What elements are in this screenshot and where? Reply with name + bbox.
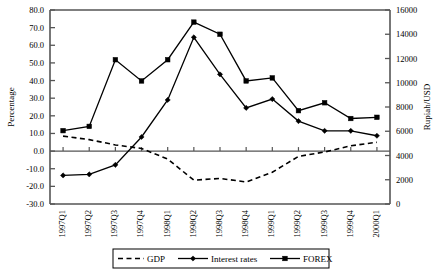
x-axis-tick-label: 1998Q2 — [188, 210, 198, 237]
chart-legend: GDPInterest ratesFOREX — [113, 249, 333, 268]
chart-axes — [50, 10, 390, 204]
x-axis-tick-label: 1998Q4 — [240, 209, 250, 237]
data-point-marker — [283, 256, 288, 261]
y-axis-left-tick-label: 0.0 — [33, 146, 44, 156]
data-point-marker — [348, 128, 353, 133]
data-point-marker — [60, 173, 65, 178]
y-axis-left-title: Percentage — [6, 87, 16, 126]
x-axis-tick-label: 1997Q3 — [109, 210, 119, 237]
data-point-marker — [375, 115, 380, 120]
y-axis-right-title: Rupiah/USD — [422, 83, 432, 130]
x-axis-ticks: 1997Q11997Q21997Q31997Q41998Q11998Q21998… — [57, 147, 381, 237]
y-axis-right-tick-label: 10000 — [396, 78, 417, 88]
data-point-marker — [374, 133, 379, 138]
y-axis-left-tick-label: 30.0 — [29, 93, 44, 103]
y-axis-left-tick-label: 50.0 — [29, 58, 44, 68]
data-point-marker — [270, 76, 275, 81]
x-axis-tick-label: 1998Q3 — [214, 210, 224, 237]
x-axis-tick-label: 1999Q1 — [266, 210, 276, 237]
y-axis-right-tick-label: 16000 — [396, 5, 417, 15]
chart-figure: 80.070.060.050.040.030.020.010.00.0-10.0… — [0, 0, 439, 272]
y-axis-right-tick-label: 12000 — [396, 54, 417, 64]
data-point-marker — [87, 124, 92, 129]
x-axis-tick-label: 1999Q2 — [292, 210, 302, 237]
y-axis-right-tick-label: 14000 — [396, 29, 417, 39]
data-point-marker — [87, 172, 92, 177]
x-axis-tick-label: 1997Q2 — [83, 210, 93, 237]
legend-label: Interest rates — [211, 254, 258, 264]
legend-label: FOREX — [303, 254, 333, 264]
data-point-marker — [139, 79, 144, 84]
y-axis-right-tick-label: 2000 — [396, 175, 413, 185]
x-axis-tick-label: 1997Q4 — [135, 209, 145, 237]
series-gdp — [63, 136, 377, 182]
data-point-marker — [113, 57, 118, 62]
data-point-marker — [322, 128, 327, 133]
data-point-marker — [218, 32, 223, 37]
series-line — [63, 136, 377, 182]
data-point-marker — [165, 57, 170, 62]
y-axis-left-tick-label: 10.0 — [29, 128, 44, 138]
data-point-marker — [192, 20, 197, 25]
data-series-group — [60, 20, 379, 182]
y-axis-right-tick-label: 0 — [396, 199, 400, 209]
line-chart: 80.070.060.050.040.030.020.010.00.0-10.0… — [0, 0, 439, 272]
data-point-marker — [61, 128, 66, 133]
y-axis-left-tick-label: 70.0 — [29, 23, 44, 33]
x-axis-tick-label: 1999Q4 — [345, 209, 355, 237]
x-axis-tick-label: 2000Q1 — [371, 210, 381, 237]
y-axis-left-tick-label: -30.0 — [26, 199, 44, 209]
y-axis-right-tick-label: 8000 — [396, 102, 413, 112]
y-axis-left-tick-label: 40.0 — [29, 76, 44, 86]
y-axis-left-tick-label: 80.0 — [29, 5, 44, 15]
data-point-marker — [244, 79, 249, 84]
data-point-marker — [296, 108, 301, 113]
data-point-marker — [322, 100, 327, 105]
y-axis-right-tick-label: 4000 — [396, 151, 413, 161]
legend-label: GDP — [147, 254, 165, 264]
x-axis-tick-label: 1998Q1 — [162, 210, 172, 237]
data-point-marker — [348, 116, 353, 121]
y-axis-left-tick-label: -10.0 — [26, 164, 44, 174]
y-axis-left-tick-label: 60.0 — [29, 40, 44, 50]
y-axis-left-tick-label: -20.0 — [26, 181, 44, 191]
y-axis-right-tick-label: 6000 — [396, 126, 413, 136]
axis-titles: PercentageRupiah/USD — [6, 83, 432, 130]
x-axis-tick-label: 1997Q1 — [57, 210, 67, 237]
y-axis-left-tick-label: 20.0 — [29, 111, 44, 121]
x-axis-tick-label: 1999Q3 — [319, 210, 329, 237]
